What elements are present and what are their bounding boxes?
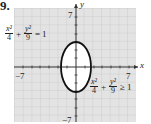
- eq1-term2-den: 9: [26, 34, 30, 42]
- boundary-equation: x²4 + y²9 = 1: [4, 25, 47, 42]
- eq1-rhs: 1: [42, 29, 47, 39]
- y-axis-label: y: [80, 0, 84, 9]
- y-min-label: −7: [62, 116, 72, 124]
- y-max-label: 7: [68, 11, 73, 20]
- eq1-term1-den: 4: [7, 34, 11, 42]
- x-min-label: −7: [15, 72, 25, 81]
- eq1-plus: +: [16, 29, 21, 39]
- eq2-term2-den: 9: [111, 87, 115, 95]
- eq2-rhs: 1: [127, 82, 132, 92]
- eq2-term1-den: 4: [92, 87, 96, 95]
- inequality-equation: x²4 + y²9 ≥ 1: [89, 78, 131, 95]
- eq2-plus: +: [101, 82, 106, 92]
- y-axis-arrow-icon: [74, 4, 78, 8]
- eq2-relation: ≥: [120, 82, 125, 92]
- x-axis-label: x: [140, 61, 144, 70]
- eq1-relation: =: [35, 29, 40, 39]
- graph-plot: [0, 0, 151, 124]
